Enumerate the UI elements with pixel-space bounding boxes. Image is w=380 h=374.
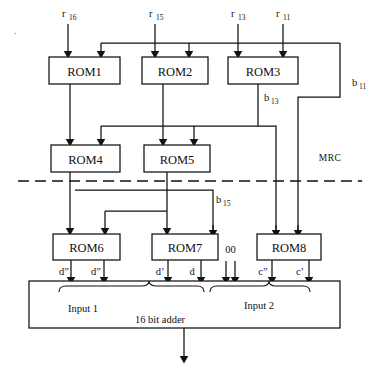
svg-text:r: r: [231, 8, 235, 19]
svg-text:15: 15: [223, 199, 231, 208]
svg-text:r: r: [149, 8, 153, 19]
mrc-region-label: MRC: [319, 153, 341, 163]
svg-text:13: 13: [238, 13, 246, 22]
wire-b13-path: [258, 84, 276, 232]
rom5-label: ROM5: [160, 153, 195, 167]
label-b13: b 13: [264, 92, 279, 106]
operand-d-prime: d’: [156, 266, 165, 277]
operand-d-double-prime-right: d”: [91, 266, 101, 277]
svg-text:11: 11: [359, 82, 366, 91]
label-r15: r 15: [149, 8, 164, 22]
svg-text:b: b: [216, 194, 221, 205]
block-diagram-svg: . r 16 r 15 r 13 r 11 ROM1 ROM2 ROM3 ROM…: [0, 0, 380, 374]
label-b11: b 11: [352, 77, 366, 91]
adder-title-label: 16 bit adder: [135, 314, 186, 325]
operand-d: d: [189, 266, 195, 277]
adder-input1-label: Input 1: [68, 303, 98, 314]
label-b15: b 15: [216, 194, 231, 208]
svg-text:11: 11: [283, 13, 290, 22]
svg-text:b: b: [352, 77, 357, 88]
operand-c-prime: c’: [296, 266, 304, 277]
rom4-label: ROM4: [68, 153, 103, 167]
svg-text:r: r: [62, 8, 66, 19]
adder-input2-label: Input 2: [244, 300, 274, 311]
rom2-label: ROM2: [158, 65, 193, 79]
label-r16: r 16: [62, 8, 77, 22]
operand-d-double-prime-left: d”: [59, 266, 69, 277]
svg-text:13: 13: [271, 97, 279, 106]
svg-text:b: b: [264, 92, 269, 103]
diagram-canvas: . r 16 r 15 r 13 r 11 ROM1 ROM2 ROM3 ROM…: [0, 0, 380, 374]
constant-00-label: 00: [225, 244, 236, 255]
label-r11: r 11: [276, 8, 290, 22]
rom6-label: ROM6: [69, 241, 104, 255]
svg-text:15: 15: [156, 13, 164, 22]
rom1-label: ROM1: [67, 65, 102, 79]
rom7-label: ROM7: [168, 241, 203, 255]
wire-b11-path: [298, 43, 340, 122]
svg-text:r: r: [276, 8, 280, 19]
stray-mark: .: [14, 26, 16, 36]
rom3-label: ROM3: [246, 65, 281, 79]
svg-text:16: 16: [69, 13, 77, 22]
operand-c-double-prime: c”: [258, 266, 268, 277]
label-r13: r 13: [231, 8, 246, 22]
rom8-label: ROM8: [272, 241, 307, 255]
